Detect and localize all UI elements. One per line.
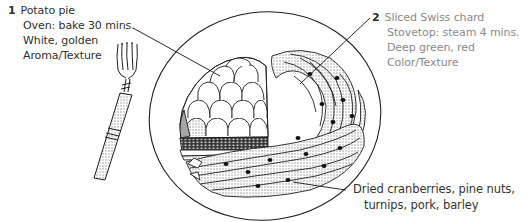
leader-line-1 [133,28,220,76]
annotation-1-line-1: Potato pie [21,4,75,17]
annotation-2-line-4: Color/Texture [372,55,519,70]
annotation-1-line-3: White, golden [8,33,135,48]
annotation-potato-pie: 1Potato pie Oven: bake 30 mins. White, g… [8,3,135,63]
annotation-2-line-3: Deep green, red [372,40,519,55]
annotation-1-line-2: Oven: bake 30 mins. [8,18,135,33]
annotation-2-title: 2Sliced Swiss chard [372,10,519,25]
annotation-2-line-2: Stovetop: steam 4 mins. [372,25,519,40]
potato-pie [180,57,268,160]
annotation-3-line-1: Dried cranberries, pine nuts, [353,181,515,197]
annotation-grain-salad: Dried cranberries, pine nuts, turnips, p… [353,181,515,213]
fork-icon [94,43,137,180]
annotation-1-number: 1 [8,4,16,17]
annotation-1-title: 1Potato pie [8,3,135,18]
food-illustration: 1Potato pie Oven: bake 30 mins. White, g… [0,0,530,222]
annotation-2-line-1: Sliced Swiss chard [385,11,485,24]
annotation-3-line-2: turnips, pork, barley [353,197,515,213]
annotation-swiss-chard: 2Sliced Swiss chard Stovetop: steam 4 mi… [372,10,519,70]
annotation-1-line-4: Aroma/Texture [8,48,135,63]
annotation-2-number: 2 [372,11,380,24]
